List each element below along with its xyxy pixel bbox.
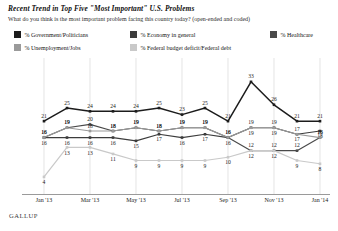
legend-item-economy: % Economy in general: [130, 31, 195, 38]
data-point-marker: [181, 136, 184, 139]
x-axis-line: [22, 194, 330, 195]
data-point-label: 19: [271, 130, 277, 136]
chart-legend: % Government/Politicians % Economy in ge…: [8, 31, 330, 55]
data-point-label: 24: [110, 103, 116, 109]
data-point-label: 19: [248, 119, 254, 125]
data-point-label: 21: [225, 113, 231, 119]
legend-item-government: % Government/Politicians: [14, 31, 88, 38]
data-point-label: 16: [225, 140, 231, 146]
data-point-label: 23: [179, 106, 185, 112]
data-point-label: 25: [202, 100, 208, 106]
legend-item-healthcare: % Healthcare: [270, 31, 313, 38]
data-point-marker: [273, 103, 276, 106]
data-point-label: 19: [179, 119, 185, 125]
data-point-marker: [135, 110, 138, 113]
data-point-label: 16: [41, 140, 47, 146]
data-point-marker: [89, 130, 92, 133]
data-point-label: 12: [248, 153, 254, 159]
legend-item-unemployment: % Unemployment/Jobs: [14, 44, 81, 51]
data-point-marker: [204, 107, 207, 110]
x-axis-tick-label: May '13: [126, 197, 146, 203]
data-point-label: 21: [41, 113, 47, 119]
data-point-label: 16: [41, 129, 47, 135]
data-point-marker: [250, 126, 253, 129]
data-point-label: 10: [225, 159, 231, 165]
data-point-label: 9: [204, 163, 207, 169]
data-point-marker: [89, 136, 92, 139]
data-point-marker: [135, 126, 138, 129]
data-point-label: 18: [87, 123, 93, 129]
data-point-label: 17: [294, 126, 300, 132]
data-point-marker: [66, 136, 69, 139]
data-point-label: 13: [64, 150, 70, 156]
data-point-label: 9: [135, 163, 138, 169]
data-point-label: 19: [248, 130, 254, 136]
data-point-label: 12: [271, 142, 277, 148]
page-subtitle: What do you think is the most important …: [8, 16, 250, 22]
data-point-marker: [66, 107, 69, 110]
data-point-marker: [158, 159, 161, 162]
data-point-label: 16: [179, 140, 185, 146]
x-axis-tick-label: Sep '13: [219, 197, 237, 203]
data-point-label: 16: [87, 140, 93, 146]
data-point-label: 25: [64, 100, 70, 106]
legend-item-deficit: % Federal budget deficit/Federal debt: [130, 44, 231, 51]
data-point-marker: [158, 133, 161, 136]
data-point-label: 25: [156, 100, 162, 106]
legend-label: % Government/Politicians: [25, 32, 89, 38]
data-point-label: 11: [110, 156, 116, 162]
x-axis-tick-label: Nov '13: [265, 197, 284, 203]
data-point-label: 8: [319, 166, 322, 172]
chart-page: Recent Trend in Top Five "Most Important…: [0, 0, 338, 231]
data-point-marker: [43, 136, 46, 139]
data-point-label: 20: [87, 116, 93, 122]
data-point-marker: [112, 110, 115, 113]
data-point-marker: [135, 159, 138, 162]
data-point-marker: [66, 146, 69, 149]
data-point-label: 16: [110, 140, 116, 146]
line-chart: 2125242424252325213326212116161616151716…: [22, 58, 330, 194]
legend-label: % Federal budget deficit/Federal debt: [141, 45, 232, 51]
data-point-label: 9: [181, 163, 184, 169]
data-point-marker: [112, 153, 115, 156]
page-title: Recent Trend in Top Five "Most Important…: [8, 4, 194, 13]
data-point-marker: [273, 149, 276, 152]
data-point-label: 24: [87, 103, 93, 109]
data-point-marker: [319, 120, 322, 123]
data-point-marker: [296, 159, 299, 162]
data-point-label: 26: [271, 96, 277, 102]
data-point-label: 12: [248, 142, 254, 148]
data-point-marker: [319, 162, 322, 165]
data-point-label: 21: [317, 113, 323, 119]
data-point-label: 16: [317, 129, 323, 135]
data-point-marker: [227, 136, 230, 139]
data-point-label: 24: [133, 103, 139, 109]
legend-label: % Unemployment/Jobs: [25, 45, 81, 51]
data-point-marker: [112, 130, 115, 133]
data-point-label: 17: [202, 136, 208, 142]
data-point-label: 12: [271, 153, 277, 159]
data-point-marker: [158, 107, 161, 110]
data-point-marker: [273, 126, 276, 129]
data-point-marker: [227, 156, 230, 159]
data-point-marker: [296, 133, 299, 136]
legend-label: % Economy in general: [141, 32, 196, 38]
data-point-label: 16: [64, 140, 70, 146]
data-point-marker: [250, 149, 253, 152]
data-point-label: 18: [156, 123, 162, 129]
data-point-marker: [112, 136, 115, 139]
data-point-label: 15: [133, 143, 139, 149]
data-point-marker: [89, 110, 92, 113]
x-axis-tick-label: Mar '13: [81, 197, 100, 203]
data-point-label: 4: [43, 179, 46, 185]
data-point-marker: [43, 176, 46, 179]
data-point-marker: [181, 159, 184, 162]
gallup-logo: GALLUP: [9, 212, 38, 219]
data-point-marker: [43, 120, 46, 123]
data-point-marker: [296, 120, 299, 123]
data-point-marker: [204, 126, 207, 129]
data-point-marker: [296, 149, 299, 152]
x-axis-labels: Jan '13Mar '13May '13Jul '13Sep '13Nov '…: [0, 197, 338, 209]
data-point-label: 17: [156, 136, 162, 142]
legend-label: % Healthcare: [281, 32, 313, 38]
